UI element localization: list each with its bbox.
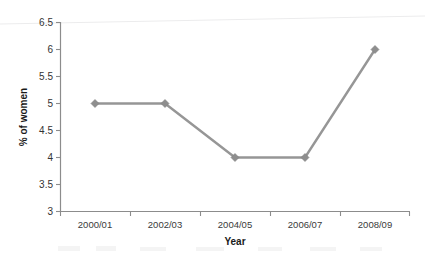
y-tick-label-4: 4	[47, 152, 53, 163]
y-tick-marks	[56, 23, 60, 212]
y-tick-label-3-5: 3.5	[39, 179, 53, 190]
y-tick-label-5: 5	[47, 98, 53, 109]
x-axis-title: Year	[224, 236, 245, 247]
scan-smudge-2	[96, 246, 116, 251]
scan-smudge-5	[258, 247, 282, 251]
scan-smudge-6	[310, 247, 336, 251]
scan-smudge-7	[360, 247, 382, 251]
scan-smudge-1	[58, 246, 80, 251]
x-tick-label-2: 2004/05	[218, 219, 252, 230]
series-line-percent-women	[95, 50, 375, 158]
x-tick-label-0: 2000/01	[78, 219, 112, 230]
x-tick-label-1: 2002/03	[148, 219, 182, 230]
y-tick-label-5-5: 5.5	[39, 71, 53, 82]
x-tick-label-4: 2008/09	[358, 219, 392, 230]
scan-smudge-4	[196, 247, 224, 251]
y-tick-label-6-5: 6.5	[39, 17, 53, 28]
data-point-2000-01	[91, 100, 99, 108]
scan-smudge-3	[140, 247, 166, 251]
y-tick-label-3: 3	[47, 206, 53, 217]
y-axis-title: % of women	[18, 88, 29, 146]
x-tick-marks	[61, 212, 410, 217]
chart-canvas: 6.5 6 5.5 5 4.5 4 3.5 3 2000/01 2002/03 …	[0, 0, 425, 259]
scan-line-top	[0, 16, 425, 24]
y-tick-labels: 6.5 6 5.5 5 4.5 4 3.5 3	[39, 17, 53, 217]
y-tick-label-6: 6	[47, 44, 53, 55]
x-tick-label-3: 2006/07	[288, 219, 322, 230]
scan-artifacts	[0, 16, 425, 251]
x-tick-labels: 2000/01 2002/03 2004/05 2006/07 2008/09	[78, 219, 392, 230]
y-tick-label-4-5: 4.5	[39, 125, 53, 136]
line-chart: 6.5 6 5.5 5 4.5 4 3.5 3 2000/01 2002/03 …	[0, 0, 425, 259]
